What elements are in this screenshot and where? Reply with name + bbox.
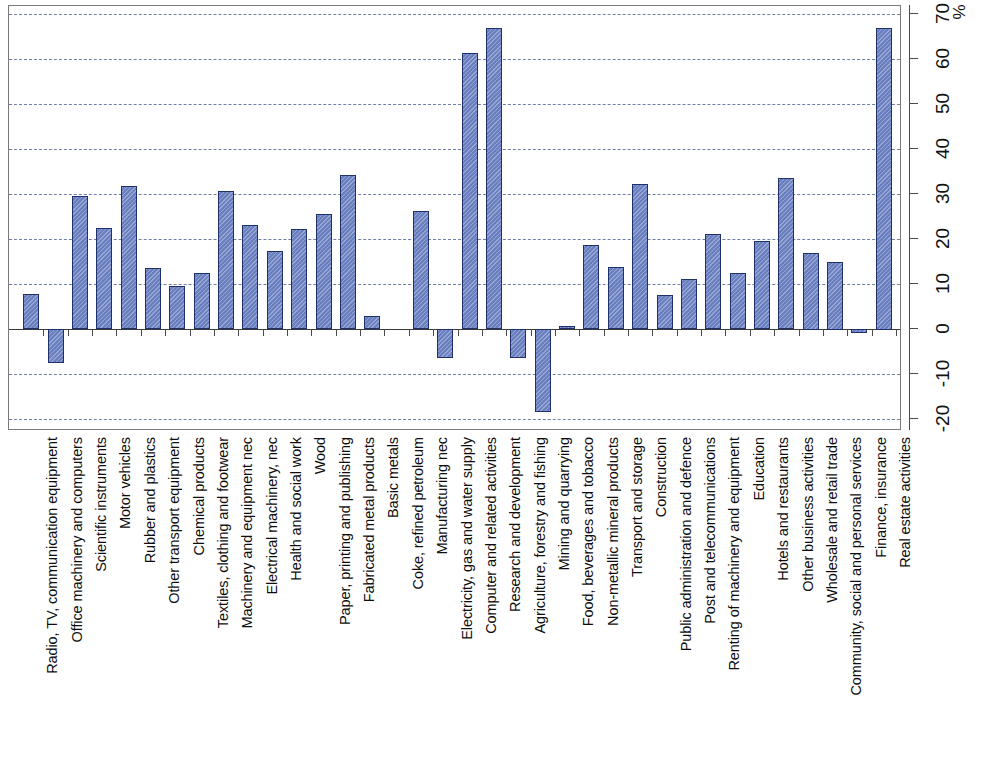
category-label: Electrical machinery, nec [265, 437, 280, 595]
bar [851, 329, 867, 333]
category-tick [141, 329, 142, 336]
category-label: Rubber and plastics [143, 437, 158, 563]
bar [72, 196, 88, 329]
bar [194, 273, 210, 329]
bar [705, 234, 721, 329]
chart-canvas: -20-10010203040506070 % Radio, TV, commu… [0, 0, 984, 772]
category-tick [263, 329, 264, 336]
category-tick [555, 329, 556, 336]
bar [681, 279, 697, 329]
bar [559, 326, 575, 329]
gridline [9, 149, 900, 150]
category-label: Finance, insurance [874, 437, 889, 558]
category-label: Fabricated metal products [362, 437, 377, 602]
category-tick [482, 329, 483, 336]
bar [462, 53, 478, 329]
category-label: Agriculture, forestry and fishing [533, 437, 548, 634]
category-tick [214, 329, 215, 336]
category-tick [336, 329, 337, 336]
bar [754, 241, 770, 329]
category-label: Transport and storage [630, 437, 645, 577]
category-tick [360, 329, 361, 336]
value-tick [909, 328, 918, 329]
category-label: Food, beverages and tobacco [581, 437, 596, 626]
category-tick [43, 329, 44, 336]
category-label: Community, social and personal services [849, 437, 864, 696]
category-tick [628, 329, 629, 336]
gridline [9, 14, 900, 15]
bar [632, 184, 648, 329]
category-label: Post and telecommunications [703, 437, 718, 624]
gridline [9, 374, 900, 375]
value-tick-label: 40 [933, 129, 952, 169]
category-label: Wood [313, 437, 328, 474]
category-tick [725, 329, 726, 336]
category-tick [531, 329, 532, 336]
value-tick [909, 238, 918, 239]
category-tick [847, 329, 848, 336]
category-label: Real estate activities [898, 437, 913, 568]
category-label: Basic metals [386, 437, 401, 518]
zero-line [9, 329, 900, 330]
bar [96, 228, 112, 329]
category-label: Education [752, 437, 767, 501]
category-tick [409, 329, 410, 336]
plot-area [8, 5, 901, 430]
value-tick [909, 193, 918, 194]
category-tick [896, 329, 897, 336]
category-label: Construction [654, 437, 669, 517]
bar [876, 28, 892, 330]
category-tick [165, 329, 166, 336]
category-tick [458, 329, 459, 336]
category-tick [677, 329, 678, 336]
category-tick [190, 329, 191, 336]
bar [583, 245, 599, 329]
category-label: Wholesale and retail trade [825, 437, 840, 603]
value-tick [909, 103, 918, 104]
category-label: Motor vehicles [118, 437, 133, 529]
category-label: Research and development [508, 437, 523, 612]
category-tick [238, 329, 239, 336]
category-label: Renting of machinery and equipment [727, 437, 742, 671]
bar [121, 186, 137, 329]
value-tick [909, 418, 918, 419]
value-tick-label: 20 [933, 219, 952, 259]
gridline [9, 194, 900, 195]
bar [145, 268, 161, 329]
category-label: Machinery and equipment nec [240, 437, 255, 629]
bar [316, 214, 332, 329]
category-tick [750, 329, 751, 336]
value-tick [909, 283, 918, 284]
bar [827, 262, 843, 330]
category-tick [311, 329, 312, 336]
category-tick [384, 329, 385, 336]
category-tick [116, 329, 117, 336]
category-tick [506, 329, 507, 336]
category-label: Office machinery and computers [70, 437, 85, 642]
bar [48, 329, 64, 363]
value-tick-label: -20 [933, 399, 952, 439]
category-tick [872, 329, 873, 336]
bar [23, 294, 39, 329]
bar [267, 251, 283, 329]
category-label: Electricity, gas and water supply [460, 437, 475, 640]
category-label: Coke, refined petroleum [411, 437, 426, 589]
bar [437, 329, 453, 358]
value-tick-label: 10 [933, 264, 952, 304]
bar [218, 191, 234, 329]
value-tick [909, 373, 918, 374]
bar [169, 286, 185, 329]
category-tick [579, 329, 580, 336]
bar [510, 329, 526, 358]
value-tick-label: 60 [933, 39, 952, 79]
value-tick [909, 148, 918, 149]
bar [535, 329, 551, 412]
category-tick [652, 329, 653, 336]
category-tick [799, 329, 800, 336]
category-tick [68, 329, 69, 336]
value-tick-label: 50 [933, 84, 952, 124]
bar [657, 295, 673, 329]
category-tick [287, 329, 288, 336]
category-label: Other business activities [801, 437, 816, 592]
category-label: Non-metallic mineral products [606, 437, 621, 626]
